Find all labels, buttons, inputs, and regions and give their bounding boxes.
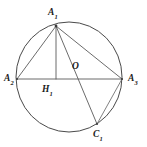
label-point-o: O: [72, 62, 79, 72]
diagram-canvas: [0, 0, 147, 147]
vertex-a2-dot: [16, 78, 18, 80]
label-point-a1: A1: [48, 8, 58, 19]
label-o-base: O: [72, 61, 79, 71]
label-h1-subscript: 1: [50, 90, 53, 97]
label-point-a3: A3: [128, 74, 138, 85]
label-a2-base: A: [4, 73, 10, 83]
label-h1-base: H: [42, 84, 49, 94]
label-a3-subscript: 3: [135, 79, 138, 86]
segment-a1-a3: [56, 26, 122, 79]
label-c1-subscript: 1: [100, 135, 103, 142]
segment-a1-c1: [56, 26, 97, 124]
label-a2-subscript: 2: [11, 79, 14, 86]
label-point-a2: A2: [4, 74, 14, 85]
geometry-figure: A1 A2 A3 O H1 C1: [0, 0, 147, 147]
circumcircle: [16, 22, 122, 132]
segment-a3-c1: [97, 79, 122, 124]
label-c1-base: C: [93, 129, 99, 139]
label-point-h1: H1: [42, 85, 53, 96]
label-a1-base: A: [48, 7, 54, 17]
label-point-c1: C1: [93, 130, 103, 141]
label-a3-base: A: [128, 73, 134, 83]
vertex-a1-dot: [55, 25, 58, 28]
label-a1-subscript: 1: [55, 13, 58, 20]
vertex-c1-dot: [96, 123, 98, 125]
vertex-a3-dot: [121, 78, 123, 80]
